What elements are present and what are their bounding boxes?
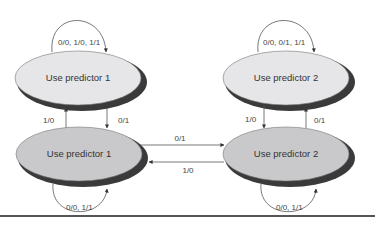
self-loop-top-left: 0/0, 1/0, 1/1: [52, 21, 106, 53]
edge-label: 0/1: [118, 116, 130, 125]
edge-bottom-left-to-right: 0/1: [140, 134, 224, 145]
edge-label: 1/0: [43, 116, 55, 125]
self-loop-bottom-right: 0/0, 1/1: [261, 184, 316, 212]
edge-label: 1/0: [182, 166, 194, 175]
self-loop-bottom-left: 0/0, 1/1: [53, 184, 107, 212]
edge-left-up: 1/0: [43, 108, 66, 128]
edge-bottom-right-to-left: 1/0: [149, 162, 224, 175]
edge-right-up: 0/1: [306, 108, 326, 128]
state-label: Use predictor 2: [254, 148, 318, 159]
state-label: Use predictor 1: [46, 72, 110, 83]
state-diagram: 0/0, 1/0, 1/1 0/0, 0/1, 1/1 Use predicto…: [0, 0, 375, 233]
edge-label: 0/1: [314, 116, 326, 125]
self-loop-top-right: 0/0, 0/1, 1/1: [258, 21, 314, 53]
state-label: Use predictor 1: [47, 148, 111, 159]
state-top-right: Use predictor 2: [223, 51, 355, 111]
state-top-left: Use predictor 1: [15, 51, 147, 111]
state-bottom-right: Use predictor 2: [223, 127, 355, 187]
edge-label: 0/0, 1/1: [276, 203, 303, 212]
edge-left-down: 0/1: [107, 108, 130, 128]
edge-label: 1/0: [245, 115, 257, 124]
edge-label: 0/0, 0/1, 1/1: [263, 38, 306, 47]
edge-right-down: 1/0: [245, 106, 264, 128]
state-bottom-left: Use predictor 1: [16, 127, 148, 187]
state-label: Use predictor 2: [254, 72, 318, 83]
edge-label: 0/0, 1/0, 1/1: [58, 38, 101, 47]
edge-label: 0/1: [174, 134, 186, 143]
edge-label: 0/0, 1/1: [66, 203, 93, 212]
bottom-divider: [0, 215, 375, 217]
